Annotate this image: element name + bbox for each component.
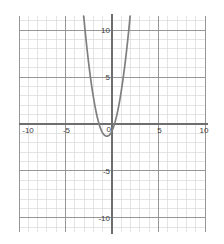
y-tick-label-neg5: -5	[103, 166, 110, 175]
y-tick-label-neg10: -10	[98, 213, 110, 222]
coordinate-plane	[0, 0, 224, 244]
axes	[19, 14, 208, 234]
x-tick-label-5: 5	[157, 126, 161, 135]
x-tick-label-neg5: -5	[63, 126, 70, 135]
y-tick-label-10: 10	[101, 26, 110, 35]
x-tick-label-neg10: -10	[22, 126, 34, 135]
parabola-graph: -10 -5 5 10 10 5 -5 -10 0	[0, 0, 224, 244]
y-tick-label-5: 5	[106, 73, 110, 82]
x-tick-label-10: 10	[200, 126, 209, 135]
origin-label: 0	[107, 125, 111, 134]
